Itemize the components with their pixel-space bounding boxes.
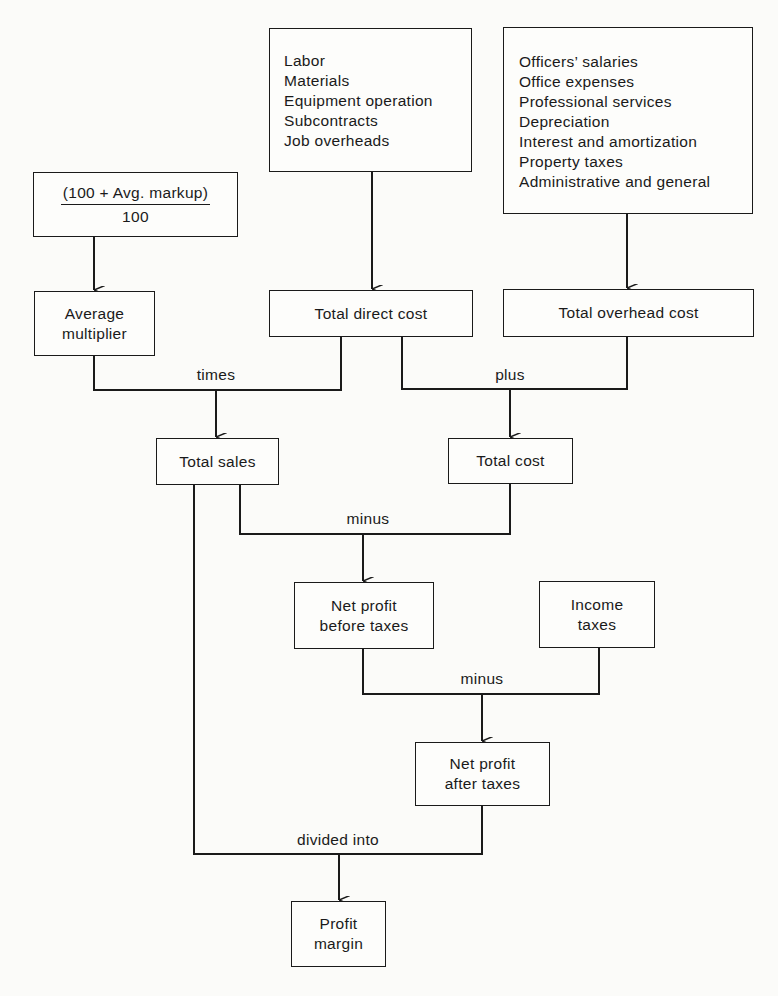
node-text: margin (314, 934, 363, 954)
minus-operator-label-2: minus (461, 670, 504, 688)
node-text: Income (571, 595, 624, 615)
node-text: Profit (320, 914, 358, 934)
plus-operator-label: plus (495, 366, 525, 384)
income-taxes-box: Income taxes (539, 581, 655, 648)
overhead-item: Interest and amortization (519, 132, 697, 152)
overhead-item: Office expenses (519, 72, 634, 92)
direct-cost-items-box: Labor Materials Equipment operation Subc… (269, 28, 472, 172)
times-operator-label: times (197, 366, 236, 384)
markup-fraction-box: (100 + Avg. markup) 100 (33, 172, 238, 237)
net-profit-before-taxes-box: Net profit before taxes (294, 582, 434, 649)
total-overhead-cost-box: Total overhead cost (503, 289, 754, 337)
node-text: Total cost (476, 451, 544, 471)
profit-margin-box: Profit margin (291, 901, 386, 967)
node-text: multiplier (62, 324, 127, 344)
total-cost-box: Total cost (448, 438, 573, 484)
overhead-item: Property taxes (519, 152, 623, 172)
total-direct-cost-box: Total direct cost (269, 290, 473, 337)
total-sales-box: Total sales (156, 438, 279, 485)
minus-operator-label-1: minus (347, 510, 390, 528)
average-multiplier-box: Average multiplier (34, 291, 155, 356)
node-text: after taxes (445, 774, 521, 794)
overhead-item: Administrative and general (519, 172, 710, 192)
fraction-numerator: (100 + Avg. markup) (61, 183, 210, 205)
fraction-denominator: 100 (122, 207, 149, 227)
net-profit-after-taxes-box: Net profit after taxes (415, 742, 550, 806)
direct-cost-item: Labor (284, 51, 325, 71)
node-text: before taxes (320, 616, 409, 636)
node-text: Net profit (331, 596, 397, 616)
node-text: taxes (578, 615, 617, 635)
overhead-item: Officers’ salaries (519, 52, 638, 72)
direct-cost-item: Subcontracts (284, 111, 378, 131)
overhead-item: Depreciation (519, 112, 610, 132)
node-text: Total direct cost (315, 304, 428, 324)
node-text: Total overhead cost (558, 303, 698, 323)
node-text: Net profit (450, 754, 516, 774)
overhead-items-box: Officers’ salaries Office expenses Profe… (503, 27, 753, 214)
direct-cost-item: Materials (284, 71, 350, 91)
direct-cost-item: Job overheads (284, 131, 390, 151)
divided-into-operator-label: divided into (297, 831, 379, 849)
node-text: Total sales (179, 452, 256, 472)
direct-cost-item: Equipment operation (284, 91, 433, 111)
node-text: Average (65, 304, 125, 324)
overhead-item: Professional services (519, 92, 672, 112)
